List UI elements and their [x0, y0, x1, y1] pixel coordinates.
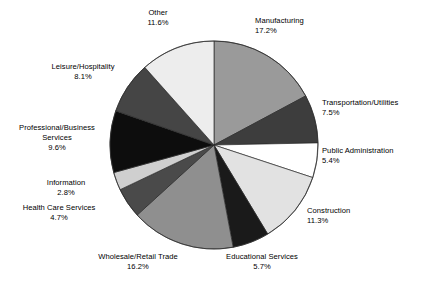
pie-label-educational-services-name: Educational Services — [207, 252, 317, 262]
pie-label-health-care-services: Health Care Services 4.7% — [4, 203, 114, 223]
pie-label-health-care-services-name: Health Care Services — [4, 203, 114, 213]
pie-label-information-name: Information — [22, 178, 110, 188]
pie-slice-group — [110, 41, 318, 249]
pie-chart: Other 11.6% Manufacturing 17.2% Leisure/… — [0, 0, 421, 287]
pie-label-educational-services: Educational Services 5.7% — [207, 252, 317, 272]
pie-label-other-value: 11.6% — [106, 18, 210, 28]
pie-label-construction-value: 11.3% — [307, 216, 407, 226]
pie-label-manufacturing-value: 17.2% — [255, 26, 405, 36]
pie-label-transportation-utilities-value: 7.5% — [322, 108, 421, 118]
pie-label-wholesale-retail-trade-value: 16.2% — [83, 262, 193, 272]
pie-label-manufacturing: Manufacturing 17.2% — [255, 16, 405, 36]
pie-label-other-name: Other — [106, 8, 210, 18]
pie-label-wholesale-retail-trade: Wholesale/Retail Trade 16.2% — [83, 252, 193, 272]
pie-label-construction: Construction 11.3% — [307, 206, 407, 226]
pie-label-health-care-services-value: 4.7% — [4, 213, 114, 223]
pie-label-information: Information 2.8% — [22, 178, 110, 198]
pie-label-educational-services-value: 5.7% — [207, 262, 317, 272]
pie-label-professional-business-services: Professional/Business Services 9.6% — [2, 123, 112, 153]
pie-label-construction-name: Construction — [307, 206, 407, 216]
pie-label-leisure-hospitality: Leisure/Hospitality 8.1% — [28, 62, 138, 82]
pie-label-public-administration-value: 5.4% — [322, 156, 421, 166]
pie-label-other: Other 11.6% — [106, 8, 210, 28]
pie-label-leisure-hospitality-value: 8.1% — [28, 72, 138, 82]
pie-label-public-administration-name: Public Administration — [322, 146, 421, 156]
pie-label-information-value: 2.8% — [22, 188, 110, 198]
pie-label-wholesale-retail-trade-name: Wholesale/Retail Trade — [83, 252, 193, 262]
pie-label-professional-business-services-value: 9.6% — [2, 143, 112, 153]
pie-label-professional-business-services-name-line2: Services — [2, 133, 112, 143]
pie-label-transportation-utilities-name: Transportation/Utilities — [322, 98, 421, 108]
pie-label-transportation-utilities: Transportation/Utilities 7.5% — [322, 98, 421, 118]
pie-label-public-administration: Public Administration 5.4% — [322, 146, 421, 166]
pie-label-professional-business-services-name-line1: Professional/Business — [2, 123, 112, 133]
pie-label-leisure-hospitality-name: Leisure/Hospitality — [28, 62, 138, 72]
pie-label-manufacturing-name: Manufacturing — [255, 16, 405, 26]
